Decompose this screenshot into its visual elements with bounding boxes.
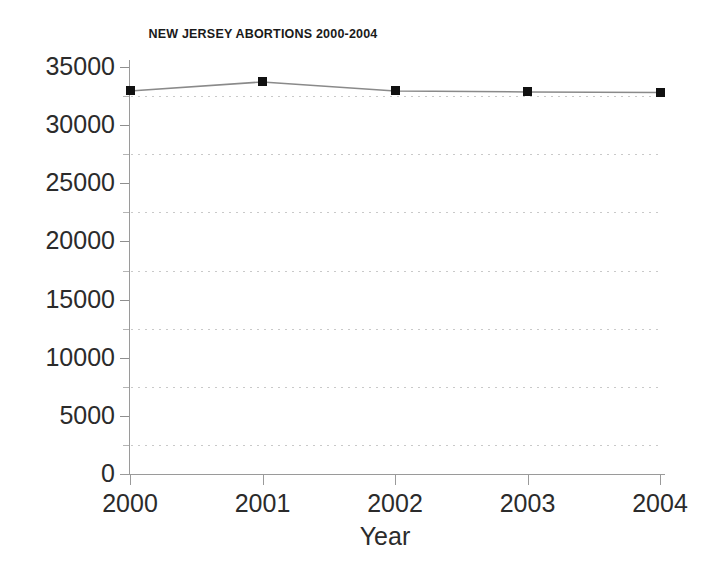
x-axis-tick <box>528 474 529 485</box>
gridline <box>131 212 660 213</box>
y-axis-tick-label: 0 <box>5 461 115 486</box>
x-axis-tick <box>263 474 264 485</box>
y-axis-tick-label: 10000 <box>5 345 115 370</box>
y-axis-tick-label: 15000 <box>5 287 115 312</box>
data-point-marker <box>523 87 532 96</box>
gridline <box>131 271 660 272</box>
gridline <box>131 329 660 330</box>
gridline <box>131 96 660 97</box>
y-axis-line <box>129 60 130 475</box>
y-axis-tick-label: 5000 <box>5 403 115 428</box>
y-axis-tick-label: 35000 <box>5 54 115 79</box>
line-chart: NEW JERSEY ABORTIONS 2000-2004 350003000… <box>0 0 707 583</box>
data-point-marker <box>126 86 135 95</box>
x-axis-tick-label: 2002 <box>335 488 455 518</box>
x-axis-tick-label: 2004 <box>600 488 707 518</box>
gridline <box>131 154 660 155</box>
x-axis-tick-label: 2001 <box>203 488 323 518</box>
x-axis-line <box>120 474 665 475</box>
gridline <box>131 445 660 446</box>
x-axis-tick <box>395 474 396 485</box>
data-point-marker <box>391 86 400 95</box>
x-axis-tick <box>660 474 661 485</box>
gridline <box>131 387 660 388</box>
data-point-marker <box>656 88 665 97</box>
x-axis-tick-label: 2003 <box>468 488 588 518</box>
y-axis-tick-label: 25000 <box>5 170 115 195</box>
x-axis-tick <box>130 474 131 485</box>
data-point-marker <box>258 77 267 86</box>
x-axis-title: Year <box>325 522 445 550</box>
x-axis-tick-label: 2000 <box>70 488 190 518</box>
chart-title: NEW JERSEY ABORTIONS 2000-2004 <box>148 27 378 41</box>
y-axis-tick-label: 30000 <box>5 112 115 137</box>
y-axis-tick-label: 20000 <box>5 228 115 253</box>
